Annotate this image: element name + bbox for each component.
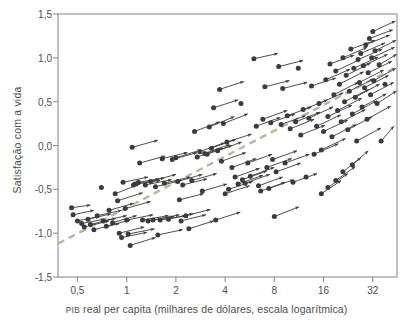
x-tick-label: 4 — [222, 285, 228, 296]
x-axis-title: PIB real per capita (milhares de dólares… — [0, 303, 413, 315]
x-tick-label: 16 — [318, 285, 329, 296]
scatter-plot-canvas — [0, 0, 413, 334]
chart-figure: Satisfação com a vida PIB real per capit… — [0, 0, 413, 334]
x-tick-label: 2 — [173, 285, 179, 296]
x-tick-label: 32 — [367, 285, 378, 296]
y-tick-label: -1,5 — [26, 272, 52, 283]
x-axis-title-prefix: PIB — [66, 305, 80, 315]
y-tick-label: 0,5 — [26, 96, 52, 107]
y-tick-label: 0,0 — [26, 140, 52, 151]
x-tick-label: 1 — [124, 285, 130, 296]
data-arrows — [69, 21, 397, 248]
y-tick-label: -0,5 — [26, 184, 52, 195]
y-tick-label: 1,5 — [26, 9, 52, 20]
y-tick-label: 1,0 — [26, 52, 52, 63]
y-tick-label: -1,0 — [26, 228, 52, 239]
x-tick-label: 0,5 — [71, 285, 85, 296]
x-axis-title-rest: real per capita (milhares de dólares, es… — [80, 303, 347, 315]
trend-line — [58, 67, 397, 244]
x-tick-label: 8 — [272, 285, 278, 296]
